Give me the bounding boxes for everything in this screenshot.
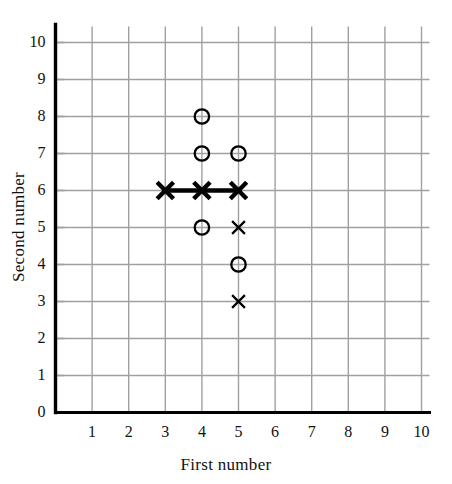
- x-tick-label: 2: [116, 423, 142, 441]
- x-axis-title: First number: [0, 455, 452, 475]
- x-tick-label: 1: [79, 423, 105, 441]
- x-tick-label: 8: [335, 423, 361, 441]
- y-tick-label: 2: [20, 329, 46, 347]
- x-tick-label: 6: [262, 423, 288, 441]
- plot-canvas: [0, 0, 452, 484]
- x-tick-label: 9: [372, 423, 398, 441]
- y-tick-label: 1: [20, 366, 46, 384]
- axis-lines-group: [56, 25, 430, 413]
- y-axis-title: Second number: [9, 127, 29, 327]
- y-tick-label: 8: [20, 107, 46, 125]
- x-tick-label: 4: [189, 423, 215, 441]
- scatter-plot-figure: 012345678910 12345678910 First number Se…: [0, 0, 452, 484]
- y-tick-label: 10: [20, 33, 46, 51]
- x-tick-label: 7: [299, 423, 325, 441]
- x-tick-label: 10: [409, 423, 435, 441]
- x-tick-label: 5: [226, 423, 252, 441]
- gridlines-group: [56, 27, 430, 413]
- x-tick-label: 3: [152, 423, 178, 441]
- y-tick-label: 0: [20, 403, 46, 421]
- y-tick-label: 9: [20, 70, 46, 88]
